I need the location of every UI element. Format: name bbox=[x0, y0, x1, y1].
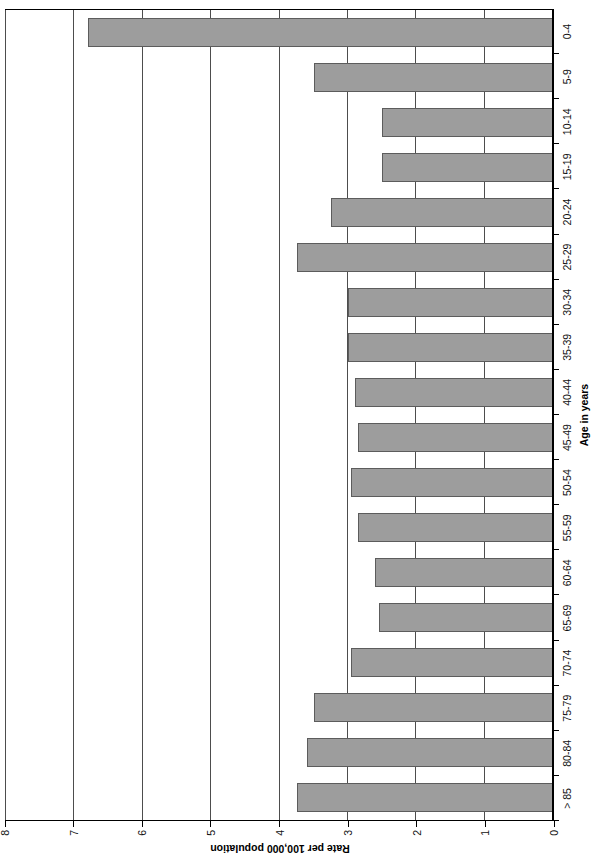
bar-slot bbox=[6, 190, 553, 235]
value-axis-tick-label: 1 bbox=[479, 830, 491, 836]
bar-slot bbox=[6, 415, 553, 460]
bar-slot bbox=[6, 325, 553, 370]
bar-slot bbox=[6, 100, 553, 145]
value-axis-tick-label: 4 bbox=[274, 830, 286, 836]
category-axis-tick-label: 80-84 bbox=[561, 731, 573, 776]
value-axis-tick bbox=[554, 821, 555, 827]
category-axis-tick-label: 65-69 bbox=[561, 595, 573, 640]
bar[interactable] bbox=[351, 468, 553, 497]
bar-chart-figure: 012345678 Rate per 100,000 population 0-… bbox=[0, 0, 599, 861]
bar[interactable] bbox=[307, 738, 553, 767]
category-axis-tick-label: 35-39 bbox=[561, 325, 573, 370]
category-axis-tick-label: 60-64 bbox=[561, 550, 573, 595]
bar[interactable] bbox=[297, 243, 553, 272]
value-axis-tick bbox=[73, 821, 74, 827]
category-axis-tick-label: > 85 bbox=[561, 776, 573, 821]
value-axis: 012345678 bbox=[5, 821, 554, 861]
bar[interactable] bbox=[358, 513, 553, 542]
bar[interactable] bbox=[297, 783, 553, 812]
value-axis-tick-label: 7 bbox=[68, 830, 80, 836]
value-axis-tick-label: 5 bbox=[205, 830, 217, 836]
value-axis-tick bbox=[279, 821, 280, 827]
bar-slot bbox=[6, 370, 553, 415]
value-axis-tick-label: 3 bbox=[342, 830, 354, 836]
category-axis-tick-label: 55-59 bbox=[561, 505, 573, 550]
value-axis-tick-label: 0 bbox=[548, 830, 560, 836]
category-axis-tick bbox=[554, 820, 559, 821]
bar[interactable] bbox=[379, 603, 553, 632]
category-axis-tick-label: 70-74 bbox=[561, 641, 573, 686]
bar-slot bbox=[6, 685, 553, 730]
value-axis-tick-label: 8 bbox=[0, 830, 11, 836]
category-axis-tick-label: 5-9 bbox=[561, 54, 573, 99]
value-axis-tick bbox=[348, 821, 349, 827]
bar-slot bbox=[6, 55, 553, 100]
bar[interactable] bbox=[355, 378, 553, 407]
bar-slot bbox=[6, 775, 553, 820]
value-axis-tick-label: 6 bbox=[136, 830, 148, 836]
bar[interactable] bbox=[88, 18, 553, 47]
category-axis-tick-label: 50-54 bbox=[561, 460, 573, 505]
value-axis-tick-label: 2 bbox=[411, 830, 423, 836]
category-axis-title: Age in years bbox=[578, 9, 590, 821]
category-axis-tick-label: 45-49 bbox=[561, 415, 573, 460]
bar[interactable] bbox=[314, 693, 553, 722]
value-axis-baseline bbox=[552, 10, 553, 820]
bar-series bbox=[6, 10, 553, 820]
value-axis-tick bbox=[416, 821, 417, 827]
category-axis-tick-label: 30-34 bbox=[561, 280, 573, 325]
rotated-page-canvas: 012345678 Rate per 100,000 population 0-… bbox=[0, 0, 599, 861]
value-axis-tick bbox=[5, 821, 6, 827]
bar[interactable] bbox=[348, 333, 553, 362]
bar-slot bbox=[6, 460, 553, 505]
plot-area bbox=[5, 9, 554, 821]
bar[interactable] bbox=[348, 288, 553, 317]
value-axis-title: Rate per 100,000 population bbox=[6, 843, 555, 855]
bar-slot bbox=[6, 730, 553, 775]
bar[interactable] bbox=[375, 558, 553, 587]
bar[interactable] bbox=[314, 63, 553, 92]
bar-slot bbox=[6, 145, 553, 190]
bar[interactable] bbox=[358, 423, 553, 452]
category-axis-tick-label: 15-19 bbox=[561, 144, 573, 189]
bar-slot bbox=[6, 235, 553, 280]
category-axis-tick-label: 25-29 bbox=[561, 235, 573, 280]
bar[interactable] bbox=[382, 108, 553, 137]
bar[interactable] bbox=[382, 153, 553, 182]
category-axis-tick-label: 40-44 bbox=[561, 370, 573, 415]
bar[interactable] bbox=[351, 648, 553, 677]
bar-slot bbox=[6, 505, 553, 550]
value-axis-tick bbox=[210, 821, 211, 827]
category-axis-tick-label: 20-24 bbox=[561, 189, 573, 234]
bar-slot bbox=[6, 280, 553, 325]
bar[interactable] bbox=[331, 198, 553, 227]
category-axis-tick-label: 10-14 bbox=[561, 99, 573, 144]
bar-slot bbox=[6, 10, 553, 55]
bar-slot bbox=[6, 595, 553, 640]
category-axis-tick-label: 0-4 bbox=[561, 9, 573, 54]
value-axis-tick bbox=[485, 821, 486, 827]
bar-slot bbox=[6, 640, 553, 685]
value-axis-tick bbox=[142, 821, 143, 827]
category-axis-tick-label: 75-79 bbox=[561, 686, 573, 731]
bar-slot bbox=[6, 550, 553, 595]
